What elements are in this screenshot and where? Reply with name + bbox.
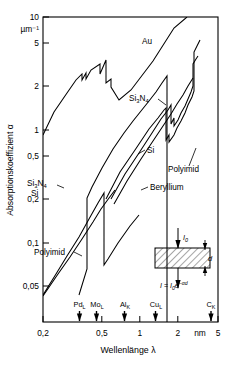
curve-si3n4-si-low — [43, 193, 139, 295]
edge-label: CuL — [150, 300, 162, 310]
x-axis-ticks — [43, 316, 218, 322]
curve-label-au: Au — [142, 37, 152, 46]
x-tick-label: 5 — [216, 328, 221, 338]
curve-si — [111, 56, 198, 199]
curve-label-polyimid-low: Polyimid — [34, 248, 65, 257]
leader-polyimid-upper — [189, 148, 196, 166]
y-tick-label: 1 — [34, 125, 39, 135]
x-axis-title: Wellenlänge λ — [100, 345, 156, 355]
inset-thickness-label: d — [208, 254, 213, 263]
y-tick-label: 0,1 — [27, 238, 39, 248]
y-tick-label: 5 — [34, 38, 39, 48]
y-axis-unit: µm⁻¹ — [20, 24, 39, 34]
edge-label: CK — [207, 300, 216, 310]
x-tick-label: 1 — [137, 328, 142, 338]
edge-marker-c-k: CK — [207, 300, 216, 322]
curve-polyimid-upper — [79, 76, 167, 322]
inset-transmitted-label: I = I0e−αd — [160, 280, 189, 291]
curve-au — [43, 17, 187, 135]
absorption-coefficient-chart: 10 5 2 1 0,5 0,2 0,1 0,05 µm⁻¹ Absorptio… — [0, 0, 247, 369]
leader-polyimid-low — [74, 252, 82, 256]
figure-root: 10 5 2 1 0,5 0,2 0,1 0,05 µm⁻¹ Absorptio… — [0, 0, 247, 369]
y-axis-ticks — [43, 17, 49, 286]
x-axis-tick-labels: 0,2 0,5 1 2 5 nm — [37, 328, 220, 338]
edge-label: PdL — [73, 300, 85, 310]
curve-si3n4-high — [106, 40, 200, 199]
edge-marker-pd-l: PdL — [73, 300, 85, 322]
curve-label-polyimid-upper: Polyimid — [168, 165, 199, 174]
curve-label-si3n4-high: Si3N4 — [129, 94, 149, 104]
y-tick-label: 0,05 — [23, 281, 40, 291]
y-axis-title: Absorptionskoeffizient α — [5, 124, 15, 215]
x-tick-label: 0,2 — [37, 328, 49, 338]
curve-label-si-low: Si — [31, 189, 38, 198]
y-tick-label: 2 — [34, 81, 39, 91]
edge-marker-al-k: AlK — [120, 300, 131, 322]
inset-incident-label: I0 — [183, 233, 188, 243]
curve-label-si3n4-low: Si3N4 — [27, 179, 47, 189]
edge-marker-cu-l: CuL — [150, 300, 162, 322]
edge-label: MoL — [90, 300, 103, 310]
x-tick-label: 0,5 — [96, 328, 108, 338]
curve-label-beryllium: Beryllium — [150, 183, 184, 192]
edge-markers: PdL MoL AlK CuL — [73, 300, 215, 322]
curve-label-si: Si — [147, 146, 154, 155]
y-tick-label: 0,5 — [27, 151, 39, 161]
x-tick-label: 2 — [175, 328, 180, 338]
leader-si3n4-si-low — [57, 185, 64, 188]
absorption-sketch-inset: I0 I = I0e−αd d — [155, 228, 213, 291]
curve-labels: Au Si3N4 Si Beryllium Polyimid Si3N4 Si … — [27, 37, 199, 257]
y-tick-label: 10 — [30, 12, 40, 22]
leader-beryllium — [141, 187, 148, 190]
leader-si3n4-high — [158, 99, 166, 105]
edge-label: AlK — [120, 300, 131, 310]
x-axis-unit: nm — [194, 328, 206, 338]
